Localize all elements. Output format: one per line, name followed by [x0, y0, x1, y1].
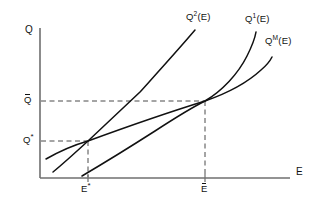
ebar-overline-text: E — [201, 184, 208, 194]
estar-sup-text: * — [88, 181, 91, 190]
q1-arg-text: (E) — [256, 13, 269, 24]
curve-label-q2: Q2(E) — [186, 12, 211, 22]
y-tick-label-qstar: Q* — [23, 135, 34, 145]
y-tick-label-qbar: Q — [24, 95, 32, 105]
q2-arg-text: (E) — [197, 11, 210, 22]
figure-container: Q E Q Q* E* E Q2(E) Q1(E) QM(E) — [0, 0, 319, 205]
q2-base-text: Q — [186, 11, 194, 22]
x-tick-label-ebar: E — [201, 184, 208, 194]
x-axis-label: E — [296, 167, 303, 177]
qm-base-text: Q — [265, 35, 273, 46]
qm-arg-text: (E) — [278, 35, 291, 46]
figure-svg — [0, 0, 319, 205]
y-axis-label: Q — [25, 25, 33, 35]
qstar-sup-text: * — [31, 132, 34, 141]
qstar-base-text: Q — [23, 134, 31, 145]
curve-q1 — [82, 32, 256, 176]
qbar-overline-text: Q — [24, 95, 32, 105]
curve-label-q1: Q1(E) — [245, 14, 270, 24]
curve-label-qm: QM(E) — [265, 36, 292, 46]
x-tick-label-estar: E* — [81, 184, 91, 194]
q1-base-text: Q — [245, 13, 253, 24]
curve-qm — [46, 57, 272, 159]
